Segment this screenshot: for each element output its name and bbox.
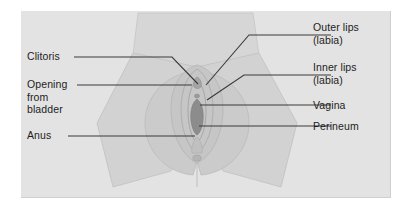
label-opening-from-bladder: Opening from bladder	[27, 78, 67, 116]
label-anus-line1: Anus	[27, 129, 51, 141]
label-perineum: Perineum	[313, 120, 359, 133]
label-opening-line1: Opening	[27, 78, 67, 91]
label-inner-lips: Inner lips (labia)	[313, 61, 357, 86]
label-outer-lips-line1: Outer lips	[313, 21, 359, 34]
label-opening-line3: bladder	[27, 103, 67, 116]
label-anus: Anus	[27, 129, 51, 142]
label-clitoris-line1: Clitoris	[27, 50, 60, 62]
body-silhouette	[97, 13, 297, 187]
label-opening-line2: from	[27, 91, 67, 104]
urethral-opening-shape	[194, 94, 199, 98]
label-inner-lips-line1: Inner lips	[313, 61, 357, 74]
label-outer-lips: Outer lips (labia)	[313, 21, 359, 46]
label-vagina: Vagina	[313, 99, 346, 112]
label-clitoris: Clitoris	[27, 50, 60, 63]
label-perineum-line1: Perineum	[313, 120, 359, 132]
label-vagina-line1: Vagina	[313, 99, 346, 111]
label-outer-lips-line2: (labia)	[313, 34, 359, 47]
label-inner-lips-line2: (labia)	[313, 74, 357, 87]
figure-root: Clitoris Opening from bladder Anus Outer…	[0, 0, 409, 215]
anus-shape	[193, 155, 201, 161]
